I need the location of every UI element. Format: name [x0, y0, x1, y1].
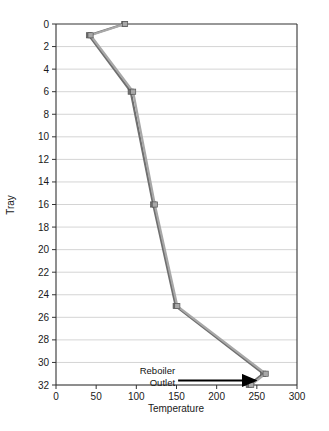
y-axis-tick-label: 26	[38, 312, 50, 323]
x-axis-title: Temperature	[148, 403, 205, 414]
x-axis-tick-label: 0	[53, 391, 59, 402]
x-axis-tick-label: 250	[248, 391, 265, 402]
y-axis-tick-label: 14	[38, 176, 50, 187]
y-axis-tick-label: 28	[38, 334, 50, 345]
y-axis-tick-label: 16	[38, 199, 50, 210]
data-point-marker	[131, 89, 136, 94]
data-point-marker	[263, 371, 268, 376]
data-point-marker	[175, 303, 180, 308]
y-axis-tick-label: 2	[43, 41, 49, 52]
data-point-marker	[122, 21, 127, 26]
x-axis-tick-label: 200	[208, 391, 225, 402]
y-axis-tick-label: 20	[38, 244, 50, 255]
reboiler-outlet-label-line2: Outlet	[150, 377, 176, 388]
y-axis-tick-label: 8	[43, 109, 49, 120]
y-axis-tick-label: 4	[43, 64, 49, 75]
data-point-marker	[249, 382, 254, 387]
y-axis-tick-label: 12	[38, 154, 50, 165]
data-point-marker	[88, 33, 93, 38]
x-axis-tick-label: 150	[168, 391, 185, 402]
y-axis-title: Tray	[5, 195, 16, 215]
data-point-marker	[152, 202, 157, 207]
y-axis-tick-label: 18	[38, 222, 50, 233]
y-axis-tick-label: 22	[38, 267, 50, 278]
y-axis-tick-label: 24	[38, 289, 50, 300]
y-axis-tick-label: 0	[43, 19, 49, 30]
x-axis-tick-label: 100	[128, 391, 145, 402]
y-axis-tick-label: 10	[38, 131, 50, 142]
temperature-vs-tray-chart: 02468101214161820222426283032 0501001502…	[0, 0, 329, 431]
x-axis-tick-label: 300	[289, 391, 306, 402]
y-axis-tick-label: 30	[38, 357, 50, 368]
y-axis-tick-label: 6	[43, 86, 49, 97]
chart-container: 02468101214161820222426283032 0501001502…	[0, 0, 329, 431]
y-axis-tick-label: 32	[38, 380, 50, 391]
x-axis-tick-label: 50	[91, 391, 103, 402]
reboiler-outlet-label-line1: Reboiler	[140, 365, 175, 376]
